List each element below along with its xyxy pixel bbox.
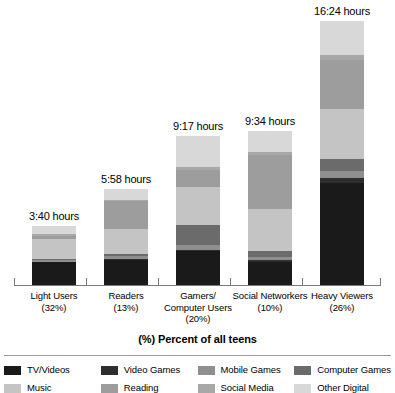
axis-title: (%) Percent of all teens bbox=[0, 333, 395, 345]
bar-segment bbox=[320, 159, 364, 170]
legend: TV/VideosVideo GamesMobile GamesComputer… bbox=[4, 362, 391, 393]
bar-segment bbox=[176, 136, 220, 167]
category-label-line: (20%) bbox=[158, 313, 238, 325]
legend-item-music[interactable]: Music bbox=[4, 380, 101, 393]
category-label-line: (13%) bbox=[86, 302, 166, 314]
bar-segment bbox=[104, 260, 148, 285]
category-label-line: (26%) bbox=[302, 302, 382, 314]
bar-segment bbox=[320, 21, 364, 55]
legend-swatch-icon bbox=[294, 366, 311, 375]
bar-total-label: 9:17 hours bbox=[173, 120, 223, 132]
legend-label: Reading bbox=[124, 382, 159, 393]
category-label-line: Gamers/ bbox=[158, 290, 238, 302]
bar-segment bbox=[248, 131, 292, 152]
legend-label: Music bbox=[27, 382, 51, 393]
legend-swatch-icon bbox=[4, 366, 21, 375]
bar-total-label: 16:24 hours bbox=[314, 5, 370, 17]
legend-item-computer-games[interactable]: Computer Games bbox=[294, 362, 391, 378]
legend-label: TV/Videos bbox=[27, 364, 70, 376]
category-label-line: Heavy Viewers bbox=[302, 290, 382, 302]
bar-segment bbox=[176, 225, 220, 245]
bar-segment bbox=[104, 189, 148, 200]
plot-area: 3:40 hours5:58 hours9:17 hours9:34 hours… bbox=[0, 0, 395, 285]
legend-swatch-icon bbox=[101, 384, 118, 393]
stacked-bar-chart: 3:40 hours5:58 hours9:17 hours9:34 hours… bbox=[0, 0, 395, 393]
category-label-line: Social Networkers bbox=[230, 290, 310, 302]
legend-swatch-icon bbox=[4, 384, 21, 393]
legend-swatch-icon bbox=[101, 366, 118, 375]
x-axis-tick bbox=[14, 278, 15, 286]
bar-segment bbox=[320, 183, 364, 285]
bar-2[interactable] bbox=[104, 189, 148, 285]
category-label-1: Light Users(32%) bbox=[14, 290, 94, 313]
bar-total-label: 3:40 hours bbox=[29, 210, 79, 222]
legend-label: Video Games bbox=[124, 364, 180, 376]
bar-segment bbox=[176, 251, 220, 285]
bar-segment bbox=[176, 187, 220, 225]
bar-total-label: 9:34 hours bbox=[245, 115, 295, 127]
bar-segment bbox=[104, 201, 148, 229]
legend-label: Mobile Games bbox=[221, 364, 281, 376]
x-axis-tick bbox=[86, 278, 87, 286]
category-label-line: Readers bbox=[86, 290, 166, 302]
bar-1[interactable] bbox=[32, 226, 76, 285]
x-axis-tick bbox=[380, 278, 381, 286]
bar-segment bbox=[32, 262, 76, 285]
category-label-line: (10%) bbox=[230, 302, 310, 314]
bar-5[interactable] bbox=[320, 21, 364, 285]
bar-segment bbox=[104, 229, 148, 254]
bar-segment bbox=[248, 262, 292, 285]
bar-segment bbox=[320, 171, 364, 178]
bar-3[interactable] bbox=[176, 136, 220, 285]
bar-segment bbox=[248, 209, 292, 252]
legend-divider bbox=[4, 355, 391, 356]
x-axis-tick bbox=[302, 278, 303, 286]
category-label-4: Social Networkers(10%) bbox=[230, 290, 310, 313]
legend-label: Social Media bbox=[221, 382, 274, 393]
legend-item-mobile-games[interactable]: Mobile Games bbox=[198, 362, 295, 378]
legend-label: Other Digital bbox=[317, 382, 369, 393]
bar-segment bbox=[176, 170, 220, 187]
legend-item-other-digital[interactable]: Other Digital bbox=[294, 380, 391, 393]
category-label-line: (32%) bbox=[14, 302, 94, 314]
category-label-line: Light Users bbox=[14, 290, 94, 302]
category-label-5: Heavy Viewers(26%) bbox=[302, 290, 382, 313]
legend-item-social-media[interactable]: Social Media bbox=[198, 380, 295, 393]
legend-item-reading[interactable]: Reading bbox=[101, 380, 198, 393]
bar-segment bbox=[320, 109, 364, 160]
legend-swatch-icon bbox=[294, 384, 311, 393]
legend-swatch-icon bbox=[198, 384, 215, 393]
category-label-2: Readers(13%) bbox=[86, 290, 166, 313]
legend-item-video-games[interactable]: Video Games bbox=[101, 362, 198, 378]
category-label-line: Computer Users bbox=[158, 302, 238, 314]
bar-segment bbox=[32, 239, 76, 258]
x-axis-line bbox=[14, 285, 381, 286]
bar-segment bbox=[248, 155, 292, 208]
bar-total-label: 5:58 hours bbox=[101, 173, 151, 185]
bar-segment bbox=[320, 60, 364, 109]
bar-4[interactable] bbox=[248, 131, 292, 285]
bar-segment bbox=[32, 226, 76, 234]
category-label-3: Gamers/Computer Users(20%) bbox=[158, 290, 238, 325]
x-axis-tick bbox=[158, 278, 159, 286]
legend-item-tv-videos[interactable]: TV/Videos bbox=[4, 362, 101, 378]
legend-label: Computer Games bbox=[317, 364, 391, 376]
legend-swatch-icon bbox=[198, 366, 215, 375]
x-axis-tick bbox=[230, 278, 231, 286]
